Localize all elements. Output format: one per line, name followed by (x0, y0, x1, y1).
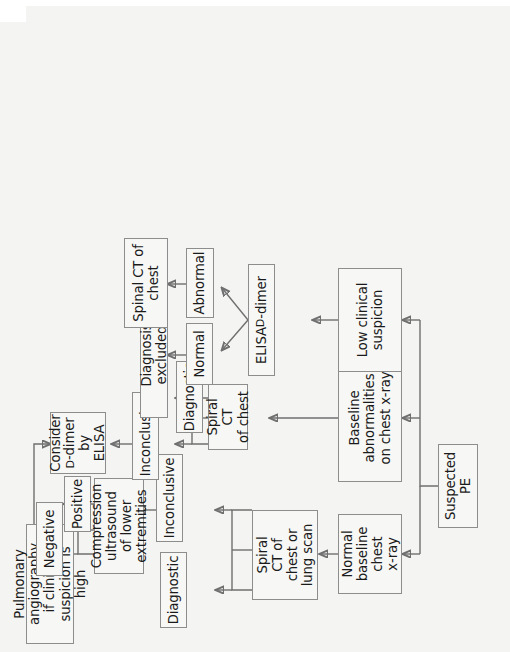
flowchart-canvas: Pulmonary angiography if clinical suspic… (20, 10, 490, 650)
consider-line-1: Consider (49, 414, 64, 471)
node-normal-baseline-chest-xray[interactable]: Normal baseline chest x-ray (338, 514, 402, 594)
node-elisa-d-dimer[interactable]: ELISA D-dimer (248, 264, 275, 376)
node-inconclusive-left[interactable]: Inconclusive (156, 454, 183, 542)
node-spiral-ct-lung-scan[interactable]: Spiral CT of chest or lung scan (252, 510, 318, 600)
edge-elisa-to-abnormal (222, 288, 248, 320)
consider-line-3: by ELISA (78, 416, 107, 470)
elisa-suffix: -dimer (254, 276, 269, 319)
edge-elisa-to-normal (222, 320, 248, 350)
d-dimer-smallcap: D (64, 460, 77, 468)
node-spinal-ct-chest[interactable]: Spinal CT of chest (124, 238, 168, 328)
edge-pe-trunk (420, 320, 438, 486)
node-abnormal[interactable]: Abnormal (186, 248, 214, 318)
node-consider-d-dimer[interactable]: Consider D-dimer by ELISA (50, 412, 106, 474)
elisa-d-smallcap: D (255, 318, 268, 326)
node-compression-ultrasound[interactable]: Compression ultrasound of lower extremit… (94, 478, 144, 574)
page-corner-fold (0, 0, 26, 22)
node-positive-box[interactable]: Positive (64, 476, 91, 532)
node-low-clinical-suspicion[interactable]: Low clinical suspicion (338, 268, 402, 372)
elisa-prefix: ELISA (254, 327, 269, 364)
node-negative-box[interactable]: Negative (36, 502, 63, 576)
page-edge-top (0, 0, 510, 6)
figure-page: Pulmonary angiography if clinical suspic… (0, 0, 510, 659)
node-baseline-abnormalities[interactable]: Baseline abnormalities on chest x-ray (338, 354, 402, 482)
node-suspected-pe[interactable]: Suspected PE (438, 444, 478, 528)
node-normal[interactable]: Normal (186, 323, 213, 385)
consider-line-2: D-dimer (63, 417, 78, 468)
page-edge-bottom (0, 652, 510, 659)
node-diagnostic-left[interactable]: Diagnostic (160, 552, 187, 628)
node-spiral-ct-chest[interactable]: Spiral CT of chest (208, 384, 248, 450)
